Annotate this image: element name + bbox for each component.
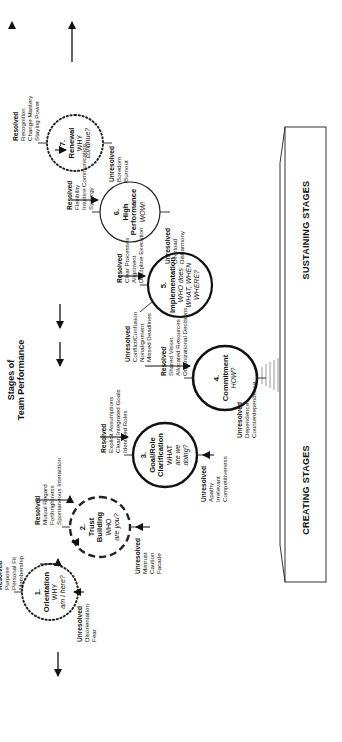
unresolved-heading: Unresolved xyxy=(76,604,83,642)
stage-1-orientation: 1. Orientation WHY am I here? xyxy=(34,572,67,613)
resolved-item: Flexibility xyxy=(73,144,80,210)
platform-divider-shade xyxy=(262,358,278,392)
unresolved-item: Irrelevant xyxy=(214,456,221,502)
stage-question: WHAT, WHEN xyxy=(185,257,193,313)
resolved-heading: Resolved xyxy=(116,228,123,283)
resolved-item: Membership xyxy=(17,556,24,590)
resolved-item: Discipline Execution xyxy=(137,228,144,283)
unresolved-item: Missed Deadlines xyxy=(145,312,152,362)
resolved-item: Mutual Regard xyxy=(41,458,48,525)
title-line-1: Stages of xyxy=(6,340,16,420)
stage-name: Orientation xyxy=(42,572,51,613)
stage-6-resolved: Resolved Flexibility Intuitive Communica… xyxy=(66,144,94,210)
stage-7-unresolved: Unresolved Boredom Burnout xyxy=(108,146,129,182)
unresolved-item: Apathy xyxy=(207,456,214,502)
stage-name: Clarification xyxy=(157,433,166,477)
stage-4-unresolved: Unresolved Dependence Counterdependence xyxy=(236,382,257,438)
resolved-item: Intuitive Communication xyxy=(80,144,87,210)
stage-5-resolved: Resolved Clear Processes Alignment Disci… xyxy=(116,228,144,283)
unresolved-item: Counterdependence xyxy=(250,382,257,438)
stage-7-resolved: Resolved Recognition Change Mastery Stay… xyxy=(12,96,40,141)
resolved-item: Personal Fit xyxy=(10,556,17,590)
unresolved-item: Fear xyxy=(90,604,97,642)
resolved-item: Shared Vision xyxy=(167,308,174,376)
resolved-item: Purpose xyxy=(3,556,10,590)
resolved-item: Allocated Resources xyxy=(174,308,181,376)
stage-name: Building xyxy=(96,512,105,542)
stage-question: WHY xyxy=(51,572,59,613)
stage-2-trust-building: 2. Trust Building WHO are you? xyxy=(79,512,121,542)
unresolved-item: Conflict/Confusion xyxy=(131,312,138,362)
resolved-heading: Resolved xyxy=(34,458,41,525)
stage-5-implementation: 5. Implementation WHO does WHAT, WHEN WH… xyxy=(160,257,201,313)
unresolved-item: Disorientation xyxy=(83,604,90,642)
resolved-item: Alignment xyxy=(130,228,137,283)
unresolved-item: Boredom xyxy=(115,146,122,182)
unresolved-item: Facade xyxy=(155,538,162,574)
sustaining-stages-label: SUSTAINING STAGES xyxy=(301,181,311,280)
stage-question: are you? xyxy=(113,512,121,542)
unresolved-item: Burnout xyxy=(122,146,129,182)
stage-3-goal-role-clarification: 3. Goal/Role Clarification WHAT are we d… xyxy=(140,433,190,477)
resolved-item: Recognition xyxy=(19,96,26,141)
stage-2-unresolved: Unresolved Mistrust Caution Facade xyxy=(134,538,162,574)
unresolved-item: Dependence xyxy=(243,382,250,438)
resolved-item: Change Mastery xyxy=(26,96,33,141)
unresolved-item: Caution xyxy=(148,538,155,574)
stage-question: WHAT xyxy=(166,433,174,477)
diagram-title: Stages of Team Performance xyxy=(6,340,26,420)
resolved-item: Clear, Integrated Goals xyxy=(114,389,121,453)
unresolved-heading: Unresolved xyxy=(200,456,207,502)
stage-question: WHERE? xyxy=(193,257,201,313)
stage-name: Implementation xyxy=(168,257,177,313)
stage-2-resolved: Resolved Mutual Regard Forthrightness Sp… xyxy=(34,458,62,525)
unresolved-item: Nonalignment xyxy=(138,312,145,362)
resolved-item: Explicit Assumptions xyxy=(107,389,114,453)
unresolved-heading: Unresolved xyxy=(164,228,171,264)
stage-1-unresolved: Unresolved Disorientation Fear xyxy=(76,604,97,642)
resolved-heading: Resolved xyxy=(100,389,107,453)
resolved-heading: Resolved xyxy=(12,96,19,141)
resolved-item: Synergy xyxy=(87,144,94,210)
stage-name: Commitment xyxy=(221,355,230,401)
stage-1-resolved: Resolved Purpose Personal Fit Membership xyxy=(0,556,24,590)
resolved-item: Organizational Decisions xyxy=(181,308,188,376)
stage-6-unresolved: Unresolved Overload Disharmony xyxy=(164,228,185,264)
title-line-2: Team Performance xyxy=(16,340,26,420)
stage-question: WHO does xyxy=(177,257,185,313)
stage-3-resolved: Resolved Explicit Assumptions Clear, Int… xyxy=(100,389,128,453)
resolved-item: Identified Roles xyxy=(121,389,128,453)
resolved-item: Forthrightness xyxy=(48,458,55,525)
stage-question: doing? xyxy=(182,433,190,477)
unresolved-heading: Unresolved xyxy=(134,538,141,574)
stage-5-unresolved: Unresolved Conflict/Confusion Nonalignme… xyxy=(124,312,152,362)
stage-question: are we xyxy=(174,433,182,477)
creating-stages-label: CREATING STAGES xyxy=(301,445,311,535)
unresolved-heading: Unresolved xyxy=(108,146,115,182)
resolved-item: Staying Power xyxy=(33,96,40,141)
stage-question: WHO xyxy=(105,512,113,542)
stage-3-unresolved: Unresolved Apathy Irrelevant Competitive… xyxy=(200,456,228,502)
resolved-heading: Resolved xyxy=(66,144,73,210)
unresolved-item: Mistrust xyxy=(141,538,148,574)
stage-question: am I here? xyxy=(59,572,67,613)
team-performance-diagram: Stages of Team Performance 1. Orientatio… xyxy=(0,0,342,742)
unresolved-heading: Unresolved xyxy=(124,312,131,362)
stage-4-resolved: Resolved Shared Vision Allocated Resourc… xyxy=(160,308,188,376)
resolved-item: Spontaneous Interaction xyxy=(55,458,62,525)
unresolved-item: Overload xyxy=(171,228,178,264)
resolved-heading: Resolved xyxy=(160,308,167,376)
unresolved-item: Disharmony xyxy=(178,228,185,264)
unresolved-item: Competitiveness xyxy=(221,456,228,502)
stage-4-commitment: 4. Commitment HOW? xyxy=(213,355,238,401)
resolved-item: Clear Processes xyxy=(123,228,130,283)
unresolved-heading: Unresolved xyxy=(236,382,243,438)
